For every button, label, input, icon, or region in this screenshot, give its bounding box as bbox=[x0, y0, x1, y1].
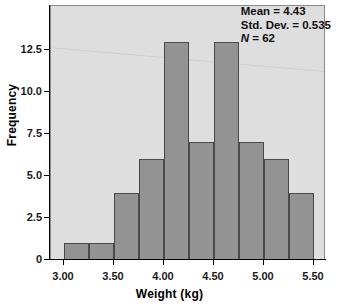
x-tick-mark bbox=[313, 260, 314, 265]
statistics-annotation: Mean = 4.43 Std. Dev. = 0.535 N = 62 bbox=[241, 5, 331, 46]
x-tick-label: 3.00 bbox=[43, 270, 83, 282]
x-tick-mark bbox=[213, 260, 214, 265]
y-tick-label: 0 bbox=[36, 254, 42, 265]
x-tick-label: 4.50 bbox=[193, 270, 233, 282]
x-tick-mark bbox=[263, 260, 264, 265]
histogram-bar bbox=[139, 159, 164, 260]
histogram-figure: 02.55.07.510.012.5 3.003.504.004.505.005… bbox=[0, 0, 339, 305]
y-tick-label: 7.5 bbox=[27, 128, 42, 139]
x-axis-line bbox=[49, 259, 326, 260]
y-tick-label: 5.0 bbox=[27, 170, 42, 181]
n-symbol: N bbox=[241, 32, 249, 44]
histogram-bar bbox=[189, 142, 214, 260]
y-tick-mark bbox=[44, 133, 49, 134]
y-tick-mark bbox=[44, 259, 49, 260]
x-axis-title: Weight (kg) bbox=[0, 287, 339, 301]
y-tick-label: 10.0 bbox=[21, 86, 42, 97]
x-tick-label: 4.00 bbox=[143, 270, 183, 282]
y-tick-label: 2.5 bbox=[27, 212, 42, 223]
n-value: = 62 bbox=[249, 32, 275, 44]
histogram-bar bbox=[64, 243, 89, 260]
y-tick-mark bbox=[44, 49, 49, 50]
histogram-bar bbox=[164, 42, 189, 260]
x-tick-mark bbox=[113, 260, 114, 265]
std-dev-stat: Std. Dev. = 0.535 bbox=[241, 19, 331, 33]
sample-size-stat: N = 62 bbox=[241, 32, 331, 46]
histogram-bar bbox=[89, 243, 114, 260]
histogram-bar bbox=[239, 142, 264, 260]
y-tick-mark bbox=[44, 91, 49, 92]
x-tick-mark bbox=[163, 260, 164, 265]
y-tick-mark bbox=[44, 175, 49, 176]
histogram-bar bbox=[289, 193, 314, 260]
mean-stat: Mean = 4.43 bbox=[241, 5, 331, 19]
y-tick-label: 12.5 bbox=[21, 44, 42, 55]
x-tick-label: 5.50 bbox=[293, 270, 333, 282]
y-tick-mark bbox=[44, 217, 49, 218]
x-tick-label: 5.00 bbox=[243, 270, 283, 282]
x-tick-label: 3.50 bbox=[93, 270, 133, 282]
histogram-bar bbox=[264, 159, 289, 260]
y-axis-line bbox=[49, 5, 50, 260]
x-tick-mark bbox=[63, 260, 64, 265]
histogram-bar bbox=[214, 42, 239, 260]
y-axis-title: Frequency bbox=[5, 55, 19, 175]
histogram-bar bbox=[114, 193, 139, 260]
